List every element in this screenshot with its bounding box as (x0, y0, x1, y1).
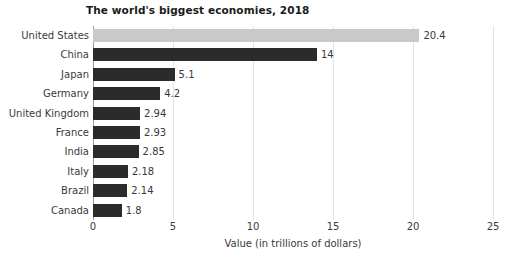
bar (93, 204, 122, 217)
bar-chart: The world's biggest economies, 2018 Unit… (0, 0, 507, 261)
bar-value-label: 5.1 (179, 66, 195, 83)
x-axis-tick-labels: 0510152025 (93, 221, 493, 237)
x-axis-tick-label: 10 (247, 221, 260, 232)
bar-row: 4.2 (93, 84, 493, 103)
x-axis-tick-label: 20 (407, 221, 420, 232)
bar-value-label: 2.85 (143, 143, 165, 160)
bar-value-label: 2.18 (132, 163, 154, 180)
x-axis-tick-label: 15 (327, 221, 340, 232)
bar (93, 107, 140, 120)
x-axis-tick-label: 5 (170, 221, 176, 232)
bar-row: 20.4 (93, 26, 493, 45)
y-axis-label: Japan (1, 65, 89, 84)
bar-row: 14 (93, 45, 493, 64)
chart-title: The world's biggest economies, 2018 (86, 4, 309, 16)
y-axis-label: Italy (1, 162, 89, 181)
gridline-25 (493, 26, 494, 220)
x-axis-title: Value (in trillions of dollars) (93, 238, 493, 249)
bar-row: 5.1 (93, 65, 493, 84)
bar (93, 29, 419, 42)
bar-value-label: 14 (321, 46, 334, 63)
bar (93, 126, 140, 139)
bar-value-label: 4.2 (164, 85, 180, 102)
plot-area: 20.4145.14.22.942.932.852.182.141.8 (93, 26, 493, 220)
y-axis-category-labels: United StatesChinaJapanGermanyUnited Kin… (0, 26, 89, 220)
bar (93, 68, 175, 81)
y-axis-label: United Kingdom (1, 104, 89, 123)
y-axis-label: China (1, 45, 89, 64)
bar-row: 2.18 (93, 162, 493, 181)
y-axis-label: France (1, 123, 89, 142)
bar-row: 2.85 (93, 142, 493, 161)
bar-row: 1.8 (93, 201, 493, 220)
y-axis-label: India (1, 142, 89, 161)
y-axis-label: Brazil (1, 181, 89, 200)
bar-value-label: 2.14 (131, 182, 153, 199)
x-axis-tick-label: 0 (90, 221, 96, 232)
x-axis-tick-label: 25 (487, 221, 500, 232)
bar-row: 2.94 (93, 104, 493, 123)
y-axis-label: United States (1, 26, 89, 45)
bar (93, 48, 317, 61)
bar-row: 2.14 (93, 181, 493, 200)
bar (93, 184, 127, 197)
bar-value-label: 2.93 (144, 124, 166, 141)
bar-value-label: 20.4 (423, 27, 445, 44)
bar-value-label: 1.8 (126, 202, 142, 219)
bar-row: 2.93 (93, 123, 493, 142)
y-axis-label: Germany (1, 84, 89, 103)
bar-value-label: 2.94 (144, 105, 166, 122)
bar (93, 145, 139, 158)
y-axis-label: Canada (1, 201, 89, 220)
bar (93, 165, 128, 178)
bar (93, 87, 160, 100)
